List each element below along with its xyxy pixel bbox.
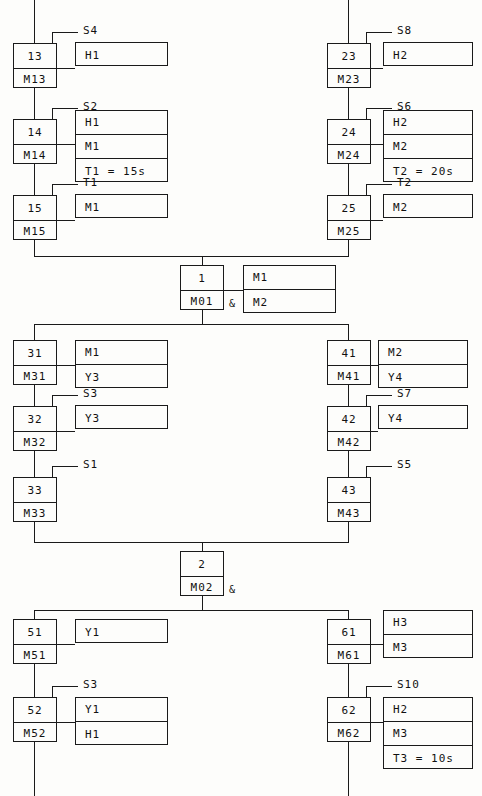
step-flag: M01 bbox=[191, 295, 214, 308]
step-number: 14 bbox=[27, 126, 42, 139]
action-block[interactable]: H2 bbox=[383, 42, 473, 66]
step-box[interactable]: 24M24 bbox=[327, 119, 371, 164]
step-box[interactable]: 25M25 bbox=[327, 195, 371, 240]
step-number-cell: 62 bbox=[328, 698, 370, 723]
connector-13-14 bbox=[34, 88, 35, 119]
step-flag: M31 bbox=[24, 370, 47, 383]
step-flag-cell: M23 bbox=[328, 69, 370, 89]
step-flag-cell: M33 bbox=[14, 503, 56, 523]
action-link-line bbox=[371, 68, 383, 69]
step-box[interactable]: 33M33 bbox=[13, 477, 57, 522]
action-block[interactable]: Y3 bbox=[75, 405, 168, 429]
connector-31-32 bbox=[34, 385, 35, 406]
action-block[interactable]: Y4 bbox=[378, 405, 468, 429]
transition-label: S5 bbox=[397, 458, 412, 471]
transition-label: T2 bbox=[397, 176, 412, 189]
step-number-cell: 31 bbox=[14, 341, 56, 366]
step-box[interactable]: 43M43 bbox=[327, 477, 371, 522]
action-text: M1 bbox=[85, 346, 100, 359]
action-block[interactable]: H2M2T2 = 20s bbox=[383, 110, 473, 182]
step-flag: M25 bbox=[338, 225, 361, 238]
action-text: Y3 bbox=[85, 412, 100, 425]
step-box[interactable]: 31M31 bbox=[13, 340, 57, 385]
step-flag-cell: M51 bbox=[14, 645, 56, 665]
action-link-line bbox=[371, 722, 383, 723]
transition-lead-line bbox=[366, 686, 392, 687]
step-box[interactable]: 14M14 bbox=[13, 119, 57, 164]
transition-label: T1 bbox=[83, 176, 98, 189]
step-number: 23 bbox=[341, 50, 356, 63]
action-block[interactable]: M1Y3 bbox=[75, 340, 168, 388]
connector-inbound-left bbox=[34, 0, 35, 43]
action-row: Y4 bbox=[379, 365, 467, 389]
action-block[interactable]: H3M3 bbox=[383, 610, 473, 658]
step-box[interactable]: 61M61 bbox=[327, 619, 371, 664]
action-block[interactable]: M1M2 bbox=[243, 265, 336, 313]
action-row: Y3 bbox=[76, 406, 167, 430]
action-block[interactable]: H1 bbox=[75, 42, 168, 66]
transition-label: S3 bbox=[83, 678, 98, 691]
step-box[interactable]: 32M32 bbox=[13, 406, 57, 451]
action-link-line bbox=[57, 365, 75, 366]
action-block[interactable]: Y1H1 bbox=[75, 697, 168, 745]
action-block[interactable]: M2 bbox=[383, 194, 473, 218]
action-text: Y4 bbox=[388, 412, 403, 425]
action-text: H2 bbox=[393, 703, 408, 716]
step-number-cell: 52 bbox=[14, 698, 56, 723]
step-number-cell: 32 bbox=[14, 407, 56, 432]
action-row: H2 bbox=[384, 43, 472, 67]
action-row: M2 bbox=[384, 135, 472, 159]
step-number-cell: 33 bbox=[14, 478, 56, 503]
action-row: Y1 bbox=[76, 698, 167, 722]
action-block[interactable]: M1 bbox=[75, 194, 168, 218]
connector-41-42 bbox=[348, 385, 349, 406]
action-link-line bbox=[224, 290, 243, 291]
step-box[interactable]: 52M52 bbox=[13, 697, 57, 742]
action-text: Y3 bbox=[85, 371, 100, 384]
connector-bar4-61 bbox=[348, 610, 349, 619]
step-box[interactable]: 41M41 bbox=[327, 340, 371, 385]
step-number: 31 bbox=[27, 347, 42, 360]
junction-step-box[interactable]: 1M01 bbox=[180, 265, 224, 310]
transition-tick bbox=[366, 184, 367, 195]
step-box[interactable]: 42M42 bbox=[327, 406, 371, 451]
step-number: 41 bbox=[341, 347, 356, 360]
transition-lead-line bbox=[366, 32, 392, 33]
step-number: 2 bbox=[198, 558, 206, 571]
action-block[interactable]: Y1 bbox=[75, 619, 168, 643]
connector-inbound-right bbox=[348, 0, 349, 43]
transition-tick bbox=[52, 32, 53, 43]
transition-lead-line bbox=[366, 395, 392, 396]
step-flag: M23 bbox=[338, 73, 361, 86]
action-text: M1 bbox=[85, 201, 100, 214]
connector-25-bar bbox=[348, 240, 349, 257]
step-box[interactable]: 15M15 bbox=[13, 195, 57, 240]
connector-23-24 bbox=[348, 88, 349, 119]
connector-42-43 bbox=[348, 451, 349, 477]
connector-43-bar bbox=[348, 522, 349, 542]
action-text: Y4 bbox=[388, 371, 403, 384]
step-box[interactable]: 13M13 bbox=[13, 43, 57, 88]
connector-32-33 bbox=[34, 451, 35, 477]
step-box[interactable]: 51M51 bbox=[13, 619, 57, 664]
step-number: 42 bbox=[341, 413, 356, 426]
step-flag-cell: M13 bbox=[14, 69, 56, 89]
step-box[interactable]: 62M62 bbox=[327, 697, 371, 742]
connector-bar4-51 bbox=[34, 610, 35, 619]
step-flag: M24 bbox=[338, 149, 361, 162]
connector-61-62 bbox=[348, 664, 349, 697]
transition-tick bbox=[52, 108, 53, 119]
action-block[interactable]: M2Y4 bbox=[378, 340, 468, 388]
transition-label: S4 bbox=[83, 24, 98, 37]
step-number: 24 bbox=[341, 126, 356, 139]
action-block[interactable]: H1M1T1 = 15s bbox=[75, 110, 168, 182]
transition-lead-line bbox=[52, 395, 78, 396]
action-row: H2 bbox=[384, 698, 472, 722]
connector-bar2-41 bbox=[348, 324, 349, 340]
connector-junction2-bar4 bbox=[202, 596, 203, 610]
action-block[interactable]: H2M3T3 = 10s bbox=[383, 697, 473, 769]
connector-24-25 bbox=[348, 164, 349, 195]
transition-tick bbox=[52, 466, 53, 477]
step-box[interactable]: 23M23 bbox=[327, 43, 371, 88]
junction-step-box[interactable]: 2M02 bbox=[180, 551, 224, 596]
